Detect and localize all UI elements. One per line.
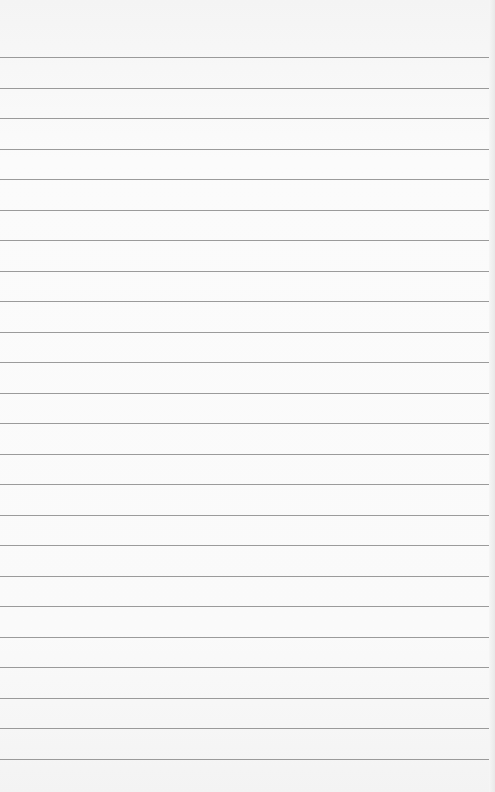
ruled-line (0, 759, 489, 760)
ruled-line (0, 728, 489, 729)
ruled-line (0, 149, 489, 150)
ruled-line (0, 88, 489, 89)
ruled-line (0, 484, 489, 485)
ruled-line (0, 515, 489, 516)
ruled-line (0, 576, 489, 577)
ruled-line (0, 545, 489, 546)
ruled-line (0, 698, 489, 699)
ruled-line (0, 118, 489, 119)
ruled-line (0, 362, 489, 363)
lined-paper-sheet (0, 0, 495, 792)
ruled-line (0, 210, 489, 211)
ruled-line (0, 240, 489, 241)
ruled-line (0, 271, 489, 272)
ruled-line (0, 667, 489, 668)
ruled-line (0, 637, 489, 638)
ruled-line (0, 57, 489, 58)
ruled-line (0, 454, 489, 455)
ruled-line (0, 301, 489, 302)
paper-edge-shadow (489, 0, 495, 792)
ruled-line (0, 606, 489, 607)
ruled-line (0, 179, 489, 180)
ruled-line (0, 332, 489, 333)
ruled-line (0, 423, 489, 424)
ruled-line (0, 393, 489, 394)
